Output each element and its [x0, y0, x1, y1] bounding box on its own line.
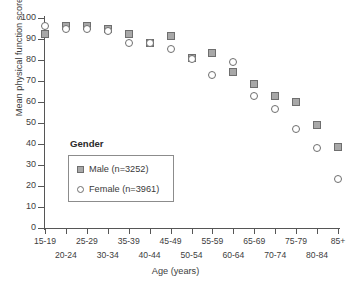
- y-tick-label: 80: [12, 54, 36, 64]
- y-tick: [38, 102, 44, 103]
- x-axis-title: Age (years): [0, 266, 351, 276]
- y-tick-label: 0: [12, 222, 36, 232]
- x-tick: [212, 229, 213, 234]
- x-tick-label: 40-44: [128, 250, 172, 260]
- x-tick-label: 25-29: [65, 236, 109, 246]
- y-tick-label: 20: [12, 180, 36, 190]
- legend-title: Gender: [70, 138, 104, 149]
- x-tick-label: 50-54: [170, 250, 214, 260]
- data-point-female: [167, 45, 175, 53]
- y-tick-label: 90: [12, 33, 36, 43]
- x-tick: [254, 229, 255, 234]
- data-point-female: [62, 25, 70, 33]
- x-tick-label: 60-64: [211, 250, 255, 260]
- x-tick-label: 55-59: [190, 236, 234, 246]
- data-point-female: [208, 71, 216, 79]
- legend-label-male: Male (n=3252): [89, 164, 149, 174]
- y-tick: [38, 123, 44, 124]
- y-tick-label: 50: [12, 117, 36, 127]
- x-tick-label: 75-79: [274, 236, 318, 246]
- legend-label-female: Female (n=3961): [89, 184, 159, 194]
- x-tick: [66, 229, 67, 234]
- data-point-male: [167, 32, 175, 40]
- data-point-male: [250, 80, 258, 88]
- data-point-female: [125, 39, 133, 47]
- x-tick: [45, 229, 46, 234]
- data-point-male: [313, 121, 321, 129]
- data-point-female: [188, 55, 196, 63]
- x-tick-label: 80-84: [295, 250, 339, 260]
- x-tick-label: 30-34: [86, 250, 130, 260]
- female-marker-icon: [77, 186, 84, 193]
- y-tick: [38, 186, 44, 187]
- data-point-male: [292, 98, 300, 106]
- x-tick-label: 65-69: [232, 236, 276, 246]
- y-tick: [38, 165, 44, 166]
- x-tick: [233, 229, 234, 234]
- data-point-male: [208, 49, 216, 57]
- x-tick: [296, 229, 297, 234]
- data-point-male: [271, 92, 279, 100]
- x-tick: [317, 229, 318, 234]
- x-tick: [150, 229, 151, 234]
- data-point-female: [229, 58, 237, 66]
- y-tick: [38, 39, 44, 40]
- legend-item-male[interactable]: Male (n=3252): [77, 164, 149, 174]
- data-point-female: [334, 175, 342, 183]
- legend-box: Male (n=3252) Female (n=3961): [68, 155, 174, 202]
- x-tick-label: 85+: [316, 236, 351, 246]
- y-tick-label: 100: [12, 12, 36, 22]
- data-point-female: [271, 105, 279, 113]
- x-tick-label: 70-74: [253, 250, 297, 260]
- y-tick: [38, 144, 44, 145]
- data-point-female: [250, 92, 258, 100]
- y-tick-label: 30: [12, 159, 36, 169]
- y-tick: [38, 81, 44, 82]
- x-tick-label: 45-49: [149, 236, 193, 246]
- x-tick: [108, 229, 109, 234]
- x-tick: [171, 229, 172, 234]
- data-point-male: [229, 68, 237, 76]
- x-tick: [129, 229, 130, 234]
- data-point-male: [41, 30, 49, 38]
- data-point-female: [83, 25, 91, 33]
- data-point-female: [104, 27, 112, 35]
- y-tick-label: 60: [12, 96, 36, 106]
- x-tick-label: 35-39: [107, 236, 151, 246]
- data-point-female: [313, 144, 321, 152]
- male-marker-icon: [77, 166, 84, 173]
- x-tick: [338, 229, 339, 234]
- y-tick-label: 10: [12, 201, 36, 211]
- y-tick-label: 40: [12, 138, 36, 148]
- data-point-male: [125, 30, 133, 38]
- x-tick: [87, 229, 88, 234]
- data-point-male: [334, 143, 342, 151]
- y-tick: [38, 18, 44, 19]
- x-tick-label: 15-19: [23, 236, 67, 246]
- legend-item-female[interactable]: Female (n=3961): [77, 184, 159, 194]
- y-tick: [38, 60, 44, 61]
- x-tick: [275, 229, 276, 234]
- y-tick: [38, 228, 44, 229]
- y-tick-label: 70: [12, 75, 36, 85]
- data-point-female: [146, 39, 154, 47]
- data-point-female: [292, 125, 300, 133]
- x-tick-label: 20-24: [44, 250, 88, 260]
- x-tick: [192, 229, 193, 234]
- scatter-chart: Mean physical function score 01020304050…: [0, 0, 351, 290]
- y-tick: [38, 207, 44, 208]
